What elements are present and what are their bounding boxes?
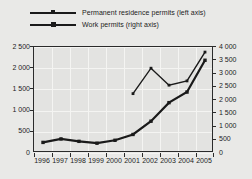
work-permits-marker — [77, 140, 80, 143]
permanent-residence-permits-marker — [186, 80, 189, 83]
work-permits-marker — [203, 59, 206, 62]
permanent-residence-permits-marker — [204, 51, 207, 54]
work-permits-line — [43, 60, 205, 143]
legend-swatch-permanent-residence-permits — [30, 8, 76, 18]
y-axis-right-tick-label: 500 — [219, 135, 231, 142]
work-permits-marker — [149, 120, 152, 123]
work-permits-marker — [185, 90, 188, 93]
x-axis-tick-label: 1999 — [87, 157, 105, 164]
y-axis-right-tick-label: 2 500 — [219, 82, 237, 89]
y-axis-left — [0, 46, 30, 152]
work-permits-marker — [131, 133, 134, 136]
x-axis-tick-label: 2003 — [159, 157, 177, 164]
y-axis-right-tick-label: 2 000 — [219, 96, 237, 103]
chart-container: Permanent residence permits (left axis) … — [0, 0, 252, 179]
legend-swatch-work-permits — [30, 20, 76, 30]
x-axis-tick-mark — [213, 153, 214, 157]
x-axis-tick-label: 2004 — [177, 157, 195, 164]
x-axis-tick-label: 2002 — [141, 157, 159, 164]
permanent-residence-permits-marker — [168, 84, 171, 87]
y-axis-right-tick-label: 1 000 — [219, 122, 237, 129]
work-permits-marker — [59, 137, 62, 140]
permanent-residence-permits-marker — [150, 67, 153, 70]
permanent-residence-permits-line — [133, 52, 205, 94]
x-axis-tick-label: 2005 — [195, 157, 213, 164]
legend-label-permanent-residence-permits: Permanent residence permits (left axis) — [82, 8, 206, 18]
y-axis-left-tick-label: 2 500 — [0, 43, 30, 50]
legend-item-work-permits[interactable]: Work permits (right axis) — [30, 20, 206, 30]
x-axis-tick-label: 1997 — [51, 157, 69, 164]
legend-item-permanent-residence-permits[interactable]: Permanent residence permits (left axis) — [30, 8, 206, 18]
y-axis-left-tick-label: 1 500 — [0, 85, 30, 92]
work-permits-marker — [41, 141, 44, 144]
y-axis-left-tick-label: 2 000 — [0, 64, 30, 71]
gridline-horizontal — [34, 153, 212, 154]
chart-legend: Permanent residence permits (left axis) … — [30, 8, 206, 30]
x-axis-tick-label: 2001 — [123, 157, 141, 164]
x-axis-tick-label: 2000 — [105, 157, 123, 164]
x-axis-tick-label: 1996 — [33, 157, 51, 164]
y-axis-right-tick-label: 3 000 — [219, 69, 237, 76]
permanent-residence-permits-marker — [132, 92, 135, 95]
y-axis-left-tick-label: 0 — [0, 149, 30, 156]
x-axis-tick-label: 1998 — [69, 157, 87, 164]
work-permits-marker — [113, 139, 116, 142]
y-axis-left-tick-label: 500 — [0, 127, 30, 134]
data-series-layer — [34, 47, 214, 153]
y-axis-right-tick-label: 3 500 — [219, 56, 237, 63]
work-permits-marker — [167, 101, 170, 104]
y-axis-left-tick-label: 1 000 — [0, 106, 30, 113]
legend-label-work-permits: Work permits (right axis) — [82, 20, 159, 30]
work-permits-marker — [95, 141, 98, 144]
plot-area — [33, 46, 213, 152]
y-axis-right-tick-label: 4 000 — [219, 43, 237, 50]
y-axis-right-tick-label: 1 500 — [219, 109, 237, 116]
y-axis-right-tick-label: 0 — [219, 149, 223, 156]
